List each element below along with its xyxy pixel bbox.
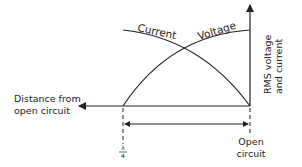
x-axis-label-line2: open circuit <box>14 105 70 116</box>
standing-wave-diagram: Current Voltage RMS voltage and current … <box>0 0 302 167</box>
open-circuit-label-line2: circuit <box>236 148 265 159</box>
current-label: Current <box>137 21 178 41</box>
x-axis-label-line1: Distance from <box>14 93 81 104</box>
current-curve <box>123 30 250 106</box>
y-axis-label-line1: RMS voltage <box>262 35 273 94</box>
voltage-curve <box>123 30 250 106</box>
quarter-wave-denominator: 4 <box>121 152 125 159</box>
y-axis-label-line2: and current <box>273 39 284 94</box>
quarter-wave-numerator: λ <box>121 144 125 151</box>
open-circuit-label-line1: Open <box>238 136 263 147</box>
voltage-label: Voltage <box>196 19 237 42</box>
